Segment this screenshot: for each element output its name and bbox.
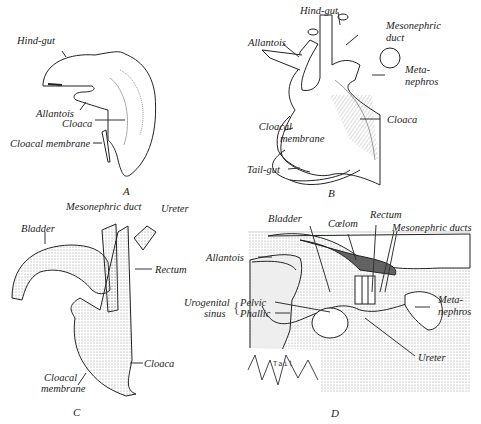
panel-d-label-metanephros-2: nephros [438,306,471,317]
panel-c-label-bladder: Bladder [21,223,55,234]
panel-c-label-cloacal-2: membrane [41,383,85,394]
panel-c-label-ureter: Ureter [161,203,189,214]
panel-b-label-allantois: Allantois [248,37,286,48]
panel-d-label-metanephros-1: Meta- [438,294,463,305]
panel-b-label-metanephros-1: Meta- [405,64,430,75]
panel-b-label-hind-gut: Hind-gut [300,5,338,16]
panel-a-label-cloaca: Cloaca [62,118,92,129]
panel-d-label-bladder: Bladder [268,213,302,224]
panel-b-label-cloacal-2: membrane [280,133,324,144]
panel-a-label-hind-gut: Hind-gut [17,35,55,46]
panel-b-label-metanephros-2: nephros [405,76,438,87]
panel-d-label-allantois: Allantois [206,252,244,263]
panel-d-label-phallic: Phallic [240,308,270,319]
panel-c-label-mesonephric-duct: Mesonephric duct [66,201,142,212]
panel-d-brace: { [233,296,240,320]
panel-d-label-rectum: Rectum [370,209,402,220]
panel-c-drawing [12,224,156,396]
panel-d-label-pelvic: Pelvic [240,297,266,308]
panel-d-label-urogenital-1: Urogenital [184,297,230,308]
panel-d-label-urogenital-2: sinus [204,308,226,319]
panel-b-caption: B [328,187,335,199]
panel-d-label-mesonephric-ducts: Mesonephric ducts [392,222,472,233]
panel-c-label-cloaca: Cloaca [144,358,174,369]
panel-b-label-cloacal-1-text: Cloacal [259,121,292,132]
panel-a-label-cloacal-membrane: Cloacal membrane [10,138,90,149]
panel-d-caption: D [331,407,339,419]
panel-d-label-coelom: Cœlom [328,218,358,229]
panel-d-label-tail: Tail [273,360,294,368]
panel-c-label-cloacal-1: Cloacal [44,372,77,383]
panel-b-label-cloaca: Cloaca [387,114,417,125]
panel-b-label-tail-gut: Tail-gut [247,164,280,175]
panel-b-label-mesonephric-2: duct [386,32,404,43]
panel-d-label-ureter: Ureter [418,352,446,363]
panel-a-caption: A [123,185,130,197]
panel-c-label-rectum: Rectum [155,264,187,275]
panel-c-caption: C [73,406,80,418]
anatomy-figure: Hind-gut Allantois Cloaca Cloacal membra… [0,0,481,424]
panel-b-label-mesonephric-1: Mesonephric [386,20,441,31]
